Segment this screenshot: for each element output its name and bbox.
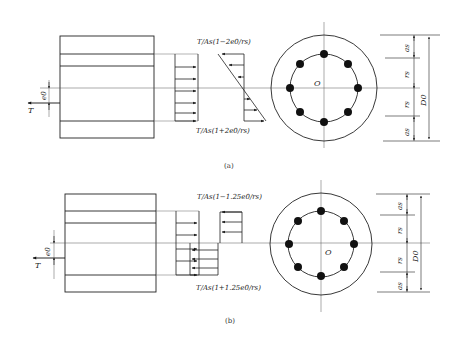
stress-bottom-label-a: T/As(1+2e0/rs) [196, 127, 250, 135]
dimension-labels-a: as rs rs as D0 [403, 44, 428, 136]
svg-text:D0: D0 [419, 94, 428, 107]
eccentricity-label-a: e0 [40, 91, 48, 100]
eccentricity-label-b: e0 [44, 247, 52, 256]
svg-text:rs: rs [403, 71, 411, 78]
uniform-stress-block-a [175, 54, 198, 121]
stepped-stress-distribution-b [190, 212, 242, 275]
member-body-a [60, 36, 154, 138]
tension-force-arrow-b: T e0 [33, 230, 65, 279]
bolt-holes-b [285, 207, 358, 280]
caption-b: (b) [225, 317, 235, 325]
svg-text:as: as [403, 128, 411, 136]
caption-a: (a) [224, 162, 234, 170]
force-label-a: T [28, 106, 34, 115]
center-label-a: O [314, 79, 321, 88]
stress-top-label-b: T/As(1−1.25e0/rs) [197, 193, 262, 201]
cross-section-b: O [270, 180, 372, 312]
stress-top-label-a: T/As(1−2e0/rs) [197, 38, 251, 46]
svg-text:rs: rs [396, 257, 404, 264]
panel-a: T e0 T/As(1−2e0/rs) T/As(1+2e0/rs) [28, 22, 440, 170]
tension-force-arrow-a: T e0 [28, 80, 60, 117]
svg-text:as: as [403, 44, 411, 52]
svg-text:D0: D0 [411, 250, 420, 263]
svg-text:as: as [396, 282, 404, 290]
panel-b: T e0 T/As(1−1.25e0/rs) T/As(1+1.25e0/rs) [33, 180, 430, 325]
center-label-b: O [325, 248, 332, 257]
linear-stress-distribution-a [218, 54, 266, 121]
stress-bottom-label-b: T/As(1+1.25e0/rs) [196, 284, 261, 292]
force-label-b: T [35, 261, 41, 270]
svg-text:as: as [396, 202, 404, 210]
svg-text:rs: rs [403, 101, 411, 108]
cross-section-a: O [271, 22, 377, 148]
svg-text:rs: rs [396, 227, 404, 234]
diagram-canvas: T e0 T/As(1−2e0/rs) T/As(1+2e0/rs) [0, 0, 459, 346]
